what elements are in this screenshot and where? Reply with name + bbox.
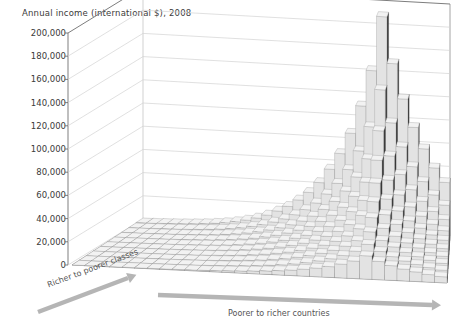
bar-top-face <box>365 213 378 218</box>
bar-top-face <box>361 239 375 244</box>
bar-top-face <box>392 206 405 211</box>
bar-top-face <box>373 126 386 131</box>
bar-top-face <box>428 190 439 195</box>
bar-top-face <box>423 263 436 268</box>
bar-top-face <box>408 122 419 127</box>
bar-top-face <box>407 162 419 167</box>
gridline <box>68 10 450 56</box>
bar-top-face <box>414 223 426 228</box>
bar-top-face <box>412 243 425 248</box>
bar-top-face <box>397 264 411 269</box>
bar-front-face <box>322 266 335 277</box>
bar-front-face <box>422 274 435 282</box>
bar-top-face <box>438 214 449 219</box>
bar-front-face <box>397 269 410 281</box>
bar-top-face <box>410 267 423 272</box>
bar-3d <box>347 256 361 279</box>
bar-3d <box>385 261 399 281</box>
bar-top-face <box>396 142 408 147</box>
bar-top-face <box>347 256 361 261</box>
bar-top-face <box>375 85 387 90</box>
bar-top-face <box>413 234 425 239</box>
bar-top-face <box>435 272 448 277</box>
bar-top-face <box>372 256 386 261</box>
bar-top-face <box>401 238 414 243</box>
bar-front-face <box>335 264 348 278</box>
bar-top-face <box>435 265 448 270</box>
bar-top-face <box>415 211 427 216</box>
bar-top-face <box>360 251 374 256</box>
bar-front-face <box>410 272 423 282</box>
bar-top-face <box>375 235 389 240</box>
bar-top-face <box>395 170 407 175</box>
bar-front-face <box>272 270 285 275</box>
bar-top-face <box>386 252 400 257</box>
bar-top-face <box>426 230 438 235</box>
axis-label-countries: Poorer to richer countries <box>228 309 330 318</box>
bar-top-face <box>403 216 415 221</box>
bar-top-face <box>385 261 399 266</box>
bar-top-face <box>429 163 440 168</box>
bar-top-face <box>397 94 409 99</box>
bar-top-face <box>399 247 412 252</box>
bar-top-face <box>387 242 400 247</box>
bar-top-face <box>349 246 363 251</box>
chart-root: Annual income (international $), 2008 20… <box>0 0 473 335</box>
bar-top-face <box>374 246 388 251</box>
plot-area <box>0 0 473 335</box>
arrow-head <box>432 300 441 311</box>
bar-3d <box>397 264 411 281</box>
bar-top-face <box>367 197 380 202</box>
bar-top-face <box>369 178 382 183</box>
bar-top-face <box>390 219 403 224</box>
bar-top-face <box>398 256 411 261</box>
bar-top-face <box>382 175 395 180</box>
bar-top-face <box>402 228 415 233</box>
bar-top-face <box>422 270 435 275</box>
bar-top-face <box>384 151 396 156</box>
bar-front-face <box>347 261 360 279</box>
bar-top-face <box>389 231 402 236</box>
bar-top-face <box>404 202 416 207</box>
bar-surface <box>72 12 450 283</box>
bar-top-face <box>405 185 417 190</box>
bar-top-face <box>439 177 450 182</box>
bar-top-face <box>371 155 384 160</box>
bar-top-face <box>418 144 429 149</box>
bar-front-face <box>297 269 310 277</box>
bar-top-face <box>438 226 449 231</box>
bar-front-face <box>372 261 385 280</box>
bar-3d <box>372 256 386 280</box>
bar-front-face <box>310 268 323 277</box>
bar-top-face <box>427 206 438 211</box>
bar-top-face <box>437 244 449 249</box>
bar-front-face <box>285 270 298 276</box>
bar-top-face <box>377 12 389 17</box>
bar-front-face <box>360 256 373 280</box>
bar-top-face <box>436 258 448 263</box>
bar-top-face <box>437 235 449 240</box>
bar-front-face <box>435 276 448 283</box>
bar-top-face <box>379 210 392 215</box>
bar-top-face <box>363 227 377 232</box>
bar-top-face <box>377 223 390 228</box>
bar-top-face <box>424 248 436 253</box>
bar-3d <box>360 251 374 280</box>
bar-top-face <box>380 194 393 199</box>
bar-3d <box>422 270 435 283</box>
bar-top-face <box>387 59 399 64</box>
bar-top-face <box>425 239 437 244</box>
bar-front-face <box>385 265 398 280</box>
bar-top-face <box>411 260 424 265</box>
bar-top-face <box>439 200 450 205</box>
bar-top-face <box>416 196 428 201</box>
bar-top-face <box>417 177 429 182</box>
bar-top-face <box>424 255 437 260</box>
bar-top-face <box>385 118 397 123</box>
bar-top-face <box>436 251 448 256</box>
bar-3d <box>435 272 448 283</box>
bar-top-face <box>393 190 405 195</box>
bar-3d <box>410 267 423 282</box>
bar-top-face <box>427 219 439 224</box>
bar-top-face <box>412 252 425 257</box>
